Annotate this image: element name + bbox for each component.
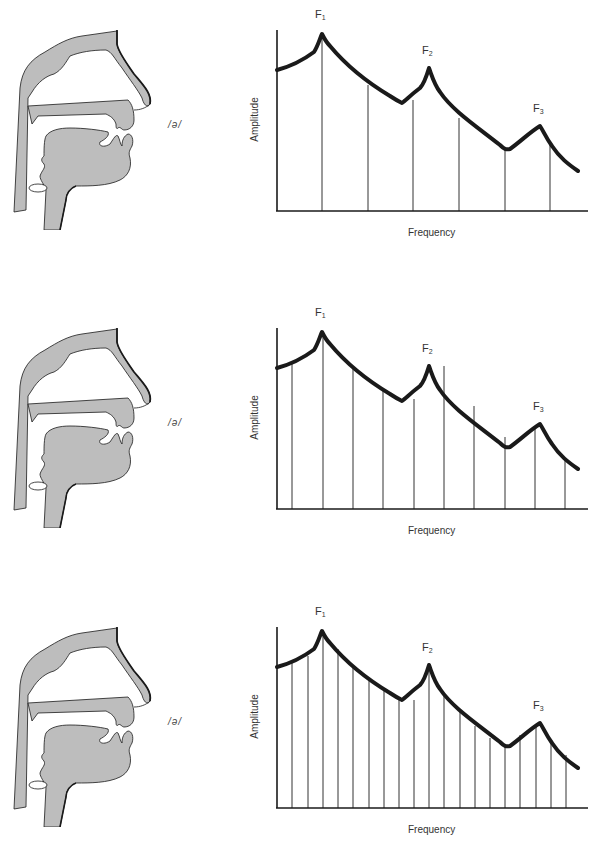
formant-label-f2: F2	[422, 342, 433, 355]
panel-2: /ə/ Amplitude Frequency F1 F2 F3	[0, 298, 605, 596]
vowel-label: /ə/	[168, 119, 182, 130]
larynx-ring	[29, 781, 47, 789]
formant-label-f1: F1	[315, 306, 326, 319]
formant-label-f1: F1	[315, 605, 326, 618]
harmonic-lines	[292, 332, 565, 509]
harmonic-lines	[292, 631, 566, 808]
y-axis-label: Amplitude	[249, 395, 260, 439]
formant-label-f2: F2	[422, 44, 433, 57]
formant-label-f3: F3	[533, 400, 544, 413]
formant-label-f2: F2	[422, 641, 433, 654]
formant-label-f3: F3	[533, 699, 544, 712]
harmonic-lines	[322, 34, 550, 211]
vowel-label: /ə/	[168, 716, 182, 727]
larynx-ring	[29, 184, 47, 192]
x-axis-label: Frequency	[408, 824, 455, 835]
tongue-lower-jaw	[40, 426, 133, 528]
vocal-tract-diagram	[0, 0, 160, 230]
vowel-label: /ə/	[168, 417, 182, 428]
upper-jaw	[28, 697, 134, 727]
formant-label-f3: F3	[533, 102, 544, 115]
larynx-ring	[29, 482, 47, 490]
upper-jaw	[28, 100, 134, 130]
vocal-tract-diagram	[0, 298, 160, 528]
x-axis-label: Frequency	[408, 227, 455, 238]
spectrum-chart	[240, 298, 605, 548]
y-axis-label: Amplitude	[249, 97, 260, 141]
spectrum-chart	[240, 597, 605, 842]
panel-3: /ə/ Amplitude Frequency F1	[0, 597, 605, 842]
vocal-tract-diagram	[0, 597, 160, 827]
panel-1: /ə/ Amplitude Frequency F1 F2 F3	[0, 0, 605, 298]
x-axis-label: Frequency	[408, 525, 455, 536]
upper-jaw	[28, 398, 134, 428]
tongue-lower-jaw	[40, 725, 133, 827]
formant-label-f1: F1	[315, 8, 326, 21]
spectrum-chart	[240, 0, 605, 250]
tongue-lower-jaw	[40, 128, 133, 230]
y-axis-label: Amplitude	[249, 694, 260, 738]
